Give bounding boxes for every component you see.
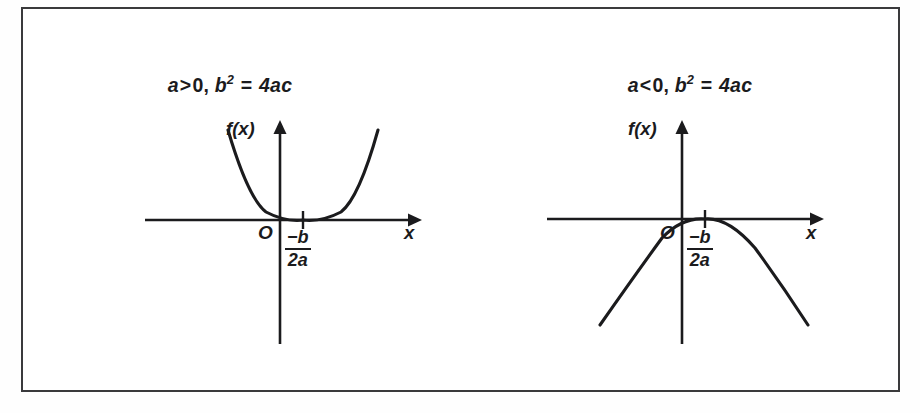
x-axis-label-left: x (404, 222, 414, 244)
x-axis-right (547, 213, 824, 226)
figure-root: a>0, b2 = 4ac f(x) x O −b 2a (0, 0, 920, 413)
x-axis-label-right: x (806, 222, 816, 244)
panel-a-greater-than-zero: a>0, b2 = 4ac f(x) x O −b 2a (0, 0, 460, 413)
plot-area-right (460, 0, 920, 413)
vertex-denominator-left: 2a (285, 251, 311, 270)
parabola-curve-left (228, 130, 378, 220)
plot-area-left (0, 0, 460, 413)
panel-a-less-than-zero: a<0, b2 = 4ac f(x) x O −b 2a (460, 0, 920, 413)
vertex-numerator-right: −b (687, 228, 713, 248)
vertex-denominator-right: 2a (687, 251, 713, 270)
origin-label-left: O (258, 222, 273, 244)
origin-label-right: O (660, 222, 675, 244)
vertex-label-right: −b 2a (687, 228, 713, 269)
vertex-numerator-left: −b (285, 228, 311, 248)
vertex-label-left: −b 2a (285, 228, 311, 269)
y-axis-label-left: f(x) (226, 118, 255, 140)
y-axis-label-right: f(x) (628, 118, 657, 140)
